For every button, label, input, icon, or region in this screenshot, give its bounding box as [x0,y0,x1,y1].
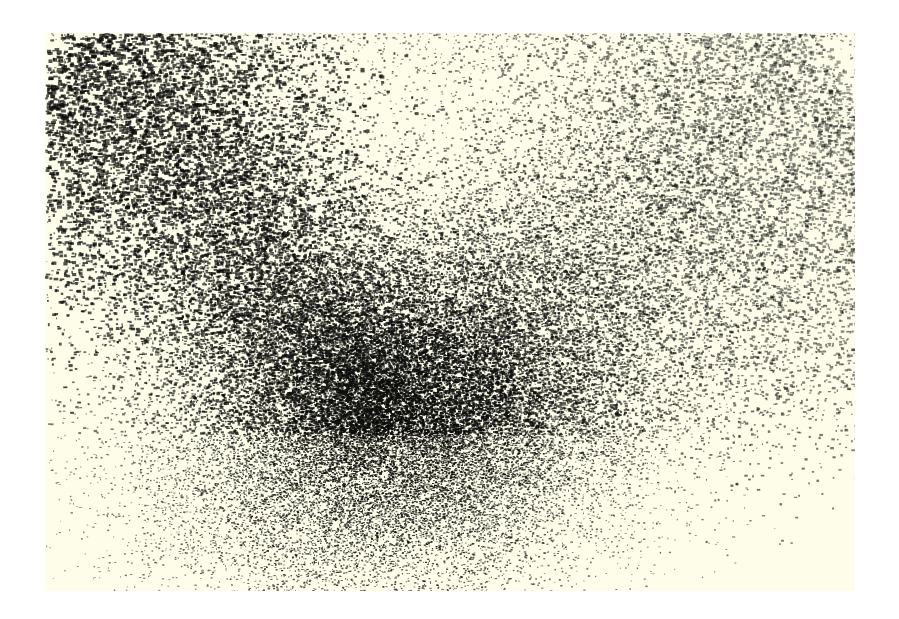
stipple-artwork-canvas [45,33,855,591]
artwork-frame [45,33,855,591]
